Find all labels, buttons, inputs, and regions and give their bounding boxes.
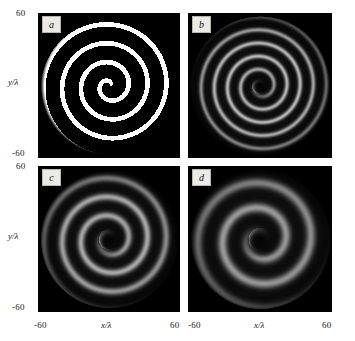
x-axis-tick-max-right: 60: [322, 320, 331, 330]
panel-a-plot: [38, 13, 180, 158]
panel-c: c: [38, 166, 180, 312]
panel-a-label: a: [42, 16, 61, 33]
x-axis-label-left: x/λ: [101, 320, 111, 330]
x-axis-tick-max-left: 60: [170, 320, 179, 330]
y-axis-label-top: y/λ: [8, 77, 18, 87]
y-axis-label-bottom: y/λ: [8, 231, 18, 241]
y-axis-tick-max-top: 60: [16, 8, 25, 18]
x-axis-label-right: x/λ: [254, 320, 264, 330]
panel-a: a: [38, 13, 180, 158]
x-axis-tick-min-left: -60: [34, 320, 47, 330]
panel-d: d: [188, 166, 332, 312]
panel-d-label: d: [192, 169, 211, 186]
panel-c-label: c: [42, 169, 61, 186]
panel-c-plot: [38, 166, 180, 312]
panel-b-plot: [188, 13, 332, 158]
y-axis-tick-min-top: -60: [12, 148, 25, 158]
panel-b-label: b: [192, 16, 211, 33]
x-axis-tick-min-right: -60: [188, 320, 201, 330]
y-axis-tick-min-bottom: -60: [12, 302, 25, 312]
panel-b: b: [188, 13, 332, 158]
y-axis-tick-max-bottom: 60: [16, 161, 25, 171]
panel-d-plot: [188, 166, 332, 312]
spiral-intensity-figure: 60 y/λ -60 60 y/λ -60 -60 x/λ 60 -60 x/λ…: [0, 0, 355, 341]
